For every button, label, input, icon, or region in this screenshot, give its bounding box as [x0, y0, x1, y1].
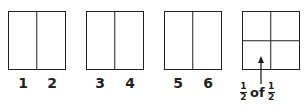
- divider-vertical: [192, 12, 193, 69]
- divider-vertical: [114, 12, 115, 69]
- numerator: 1: [268, 82, 274, 91]
- divider-horizontal: [243, 40, 299, 41]
- label-4: 4: [120, 75, 140, 91]
- label-2: 2: [42, 75, 62, 91]
- label-6: 6: [198, 75, 218, 91]
- of-word: of: [250, 85, 265, 100]
- panel-1: [8, 11, 66, 70]
- denominator: 2: [268, 93, 274, 102]
- label-3: 3: [90, 75, 110, 91]
- half-of-half-label: 1 2 of 1 2: [240, 82, 275, 102]
- panel-3: [164, 11, 222, 70]
- fraction-one-half: 1 2: [268, 82, 275, 102]
- fraction-one-half: 1 2: [240, 82, 247, 102]
- divider-vertical: [36, 12, 37, 69]
- label-5: 5: [168, 75, 188, 91]
- denominator: 2: [240, 93, 246, 102]
- label-1: 1: [13, 75, 33, 91]
- numerator: 1: [240, 82, 246, 91]
- panel-2: [86, 11, 144, 70]
- panel-4-quarters: [242, 11, 300, 70]
